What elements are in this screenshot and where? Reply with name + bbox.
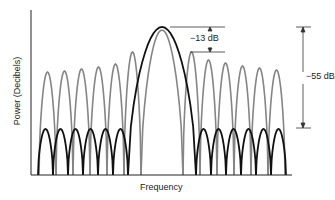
unweighted-spectrum-curve: [39, 30, 285, 175]
y-axis-label: Power (Decibels): [12, 46, 22, 136]
arrow-up-icon: [301, 27, 305, 32]
arrow-down-icon: [208, 48, 212, 52]
arrow-down-icon: [301, 123, 305, 128]
x-axis-label: Frequency: [140, 182, 183, 192]
annotation-55db-label: −55 dB: [306, 71, 335, 81]
arrow-up-icon: [208, 27, 212, 31]
annotation-13db-label: −13 dB: [190, 33, 219, 43]
